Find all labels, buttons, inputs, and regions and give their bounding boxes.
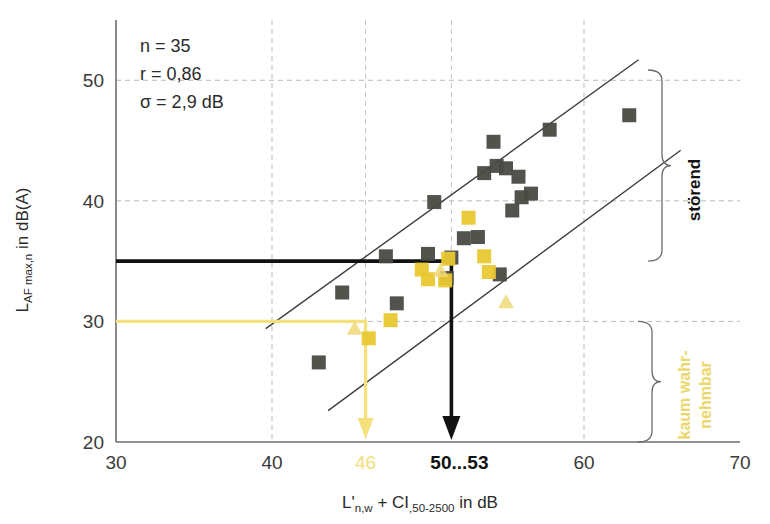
data-point-dark-squares (622, 108, 636, 122)
x-annotation-yellow: 46 (355, 452, 376, 473)
data-point-dark-squares (390, 296, 404, 310)
data-point-dark-squares (471, 230, 485, 244)
data-point-yellow-squares (477, 249, 491, 263)
data-point-dark-squares (505, 204, 519, 218)
y-axis-title: LAF max,n in dB(A) (13, 188, 34, 313)
data-point-dark-squares (427, 195, 441, 209)
data-point-yellow-squares (462, 211, 476, 225)
stat-n: n = 35 (140, 36, 191, 56)
lower-bracket-label-group: kaum wahr- nehmbar (676, 351, 714, 440)
data-point-dark-squares (421, 247, 435, 261)
y-tick-50: 50 (83, 70, 104, 91)
x-tick-30: 30 (105, 452, 126, 473)
stat-r: r = 0,86 (140, 64, 202, 84)
x-tick-40: 40 (261, 452, 282, 473)
scatter-plot-figure: 30406070 20304050 46 50...53 n = 35 r = … (0, 0, 770, 524)
y-title-tail: in dB(A) (13, 188, 32, 254)
data-point-dark-squares (335, 285, 349, 299)
data-point-yellow-squares (384, 313, 398, 327)
x-tick-labels: 30406070 (105, 452, 750, 473)
bracket-label-kaum-line1: kaum wahr- (676, 351, 693, 440)
data-point-dark-squares (511, 170, 525, 184)
bracket-label-kaum-line2: nehmbar (697, 361, 714, 429)
data-point-yellow-squares (482, 265, 496, 279)
x-title-sub1: n,w (355, 502, 374, 514)
data-point-dark-squares (477, 166, 491, 180)
data-point-yellow-squares (421, 272, 435, 286)
data-markers (312, 108, 636, 369)
data-point-yellow-squares (362, 331, 376, 345)
data-point-dark-squares (487, 135, 501, 149)
x-tick-60: 60 (573, 452, 594, 473)
yellow-threshold-indicator (116, 321, 374, 439)
gridlines (116, 20, 740, 442)
y-tick-20: 20 (83, 432, 104, 453)
x-tick-70: 70 (729, 452, 750, 473)
data-point-yellow-squares (441, 252, 455, 266)
y-tick-30: 30 (83, 311, 104, 332)
bracket-label-stoerend: störend (685, 159, 704, 221)
y-tick-labels: 20304050 (83, 70, 104, 453)
data-point-dark-squares (379, 249, 393, 263)
x-annotation-black: 50...53 (430, 452, 488, 473)
svg-text:LAF max,n in dB(A): LAF max,n in dB(A) (13, 188, 34, 313)
data-point-dark-squares (312, 355, 326, 369)
y-title-main: L (13, 303, 32, 312)
x-title-plus: + CI (373, 493, 409, 512)
x-axis-title: L'n,w + CI,50-2500 in dB (342, 493, 498, 514)
data-point-dark-squares (457, 231, 471, 245)
x-title-sub2: ,50-2500 (409, 502, 454, 514)
plot-canvas: 30406070 20304050 46 50...53 n = 35 r = … (0, 0, 770, 524)
stat-sigma: σ = 2,9 dB (140, 92, 224, 112)
upper-bracket-label-group: störend (685, 159, 704, 221)
x-title-tail: in dB (454, 493, 497, 512)
data-point-yellow-triangles (498, 294, 514, 308)
data-point-dark-squares (543, 123, 557, 137)
statistics-annotation: n = 35 r = 0,86 σ = 2,9 dB (140, 36, 224, 112)
data-point-dark-squares (499, 161, 513, 175)
lower-bracket (638, 321, 661, 442)
y-title-sub: AF max,n (22, 254, 34, 303)
y-tick-40: 40 (83, 191, 104, 212)
data-point-dark-squares (524, 187, 538, 201)
x-title-main: L' (342, 493, 355, 512)
